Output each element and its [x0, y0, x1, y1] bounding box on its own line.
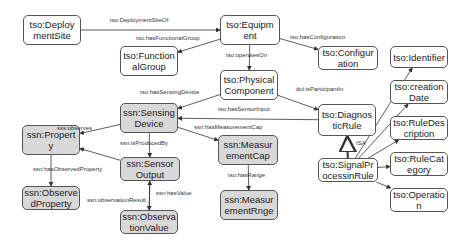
- edge-label: tso:hasConfiguration: [290, 34, 345, 41]
- node-label: ssn:Observe dProperty: [24, 187, 77, 209]
- node-label: ssn:Propert y: [27, 129, 76, 151]
- node-label: tso:Diagnos ticRule: [322, 109, 372, 131]
- node-rule-category: tso:RuleCat egory: [390, 152, 448, 176]
- node-diagnostic-rule: tso:Diagnos ticRule: [318, 104, 376, 136]
- edge-label: tso:operatesOn: [226, 52, 267, 59]
- edge-label: tso:hasRange: [228, 172, 265, 179]
- edge-label: tso:DeploymentSiteOf: [110, 17, 168, 24]
- node-operation: tso:Operatio n: [390, 188, 448, 212]
- node-label: ssn:Sensing Device: [123, 107, 175, 129]
- node-observation-value: ssn:Observa tionValue: [120, 210, 178, 234]
- edge-signalProcessingRule-ruleCategory: [378, 166, 390, 167]
- node-sensing-device: ssn:Sensing Device: [120, 103, 178, 133]
- edge-physicalComponent-diagnosticRule: [278, 95, 318, 109]
- node-identifier: tso:Identifier: [390, 46, 448, 68]
- edge-label: ssn:hasMeasurementCap: [194, 124, 262, 131]
- node-signal-processing-rule: tso:SignalPr ocessinRule: [318, 158, 378, 182]
- edge-sensorOutput-property: [80, 148, 120, 160]
- edge-sensorOutput-observationValue: [149, 181, 150, 210]
- node-label: tso:RuleCat egory: [394, 153, 444, 175]
- node-observed-property: ssn:Observe dProperty: [22, 186, 80, 210]
- node-label: tso:Configur ation: [322, 47, 373, 69]
- edge-physicalComponent-sensingDevice: [178, 95, 220, 109]
- node-measurement-range: ssn:Measur ementRnge: [220, 190, 278, 220]
- node-creation-date: tso:creation Date: [390, 80, 448, 104]
- node-label: tso:Equipm ent: [226, 19, 274, 41]
- node-deployment-site: tso:Deploy mentSite: [23, 15, 81, 45]
- edge-label: sss:observes: [57, 125, 92, 132]
- node-label: tso:Physical Component: [224, 74, 275, 96]
- edge-label: ssn:hasObservedProperty: [33, 166, 102, 173]
- node-measurement-cap: ssn:Measur ementCap: [218, 135, 278, 165]
- node-physical-component: tso:Physical Component: [220, 70, 278, 100]
- edge-label: tso:hasFunctionalGroup: [136, 35, 200, 42]
- node-rule-description: tso:RuleDes cription: [390, 116, 448, 140]
- node-label: tso:RuleDes cription: [393, 117, 445, 139]
- node-equipment: tso:Equipm ent: [220, 15, 280, 45]
- node-label: ssn:Sensor Output: [126, 158, 174, 180]
- edge-diagnosticRule-sensingDevice: [178, 118, 318, 119]
- edge-label: ISA: [356, 140, 366, 147]
- node-label: ssn:Measur ementCap: [223, 139, 272, 161]
- edge-label: tso:hasSensorInput: [218, 106, 270, 113]
- node-label: tso:Deploy mentSite: [30, 19, 75, 41]
- node-label: tso:Operatio n: [393, 189, 445, 211]
- node-sensor-output: ssn:Sensor Output: [120, 157, 180, 181]
- edge-label: ssn:isProducedBy: [120, 140, 168, 147]
- node-label: tso:Identifier: [393, 52, 445, 63]
- node-functional-group: tso:Function alGroup: [120, 46, 178, 76]
- node-label: tso:Function alGroup: [123, 50, 175, 72]
- node-configuration: tso:Configur ation: [318, 46, 378, 70]
- edge-label: ssn:observationResult: [87, 197, 146, 204]
- ontology-diagram: tso:Deploy mentSitetso:Equipm enttso:Fun…: [0, 0, 468, 244]
- edge-label: tso:hasSensingDevice: [140, 89, 199, 96]
- node-label: tso:creation Date: [394, 81, 443, 103]
- node-label: ssn:Measur ementRnge: [224, 194, 273, 216]
- edge-label: dul:isParticipantIn: [296, 86, 343, 93]
- edge-signalProcessingRule-operation: [376, 182, 390, 188]
- edge-label: ssn:hasValue: [156, 190, 192, 197]
- node-label: ssn:Observa tionValue: [122, 211, 175, 233]
- node-label: tso:SignalPr ocessinRule: [322, 159, 374, 181]
